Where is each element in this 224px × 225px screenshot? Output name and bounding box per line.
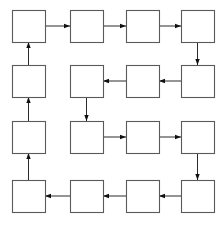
- node-box-r1c3[interactable]: [127, 11, 160, 43]
- edge-r1c1-to-r1c2-arrowhead-icon: [64, 24, 70, 28]
- edge-r1c4-to-r2c4-arrowhead-icon: [195, 59, 199, 65]
- node-box-r3c3[interactable]: [127, 122, 160, 154]
- node-box-r3c4[interactable]: [182, 122, 215, 154]
- edge-r3c3-to-r3c4-arrowhead-icon: [175, 135, 181, 139]
- node-box-r4c1[interactable]: [13, 181, 46, 213]
- node-box-r2c4[interactable]: [182, 66, 215, 98]
- edge-r2c2-to-r3c2-arrowhead-icon: [84, 115, 88, 121]
- node-box-r4c2[interactable]: [71, 181, 104, 213]
- grid-flow-diagram: [0, 0, 224, 225]
- diagram-svg: [0, 0, 224, 225]
- edge-r3c4-to-r4c4-arrowhead-icon: [195, 174, 199, 180]
- node-box-r1c1[interactable]: [13, 11, 46, 43]
- node-box-r1c4[interactable]: [182, 11, 215, 43]
- edge-layer: [26, 24, 199, 198]
- node-box-r2c2[interactable]: [71, 66, 104, 98]
- node-box-r4c3[interactable]: [127, 181, 160, 213]
- node-box-r4c4[interactable]: [182, 181, 215, 213]
- node-box-r3c2[interactable]: [71, 122, 104, 154]
- node-box-r2c1[interactable]: [13, 66, 46, 98]
- edge-r1c2-to-r1c3-arrowhead-icon: [120, 24, 126, 28]
- node-box-r2c3[interactable]: [127, 66, 160, 98]
- node-layer: [13, 11, 215, 213]
- edge-r1c3-to-r1c4-arrowhead-icon: [175, 24, 181, 28]
- node-box-r3c1[interactable]: [13, 122, 46, 154]
- node-box-r1c2[interactable]: [71, 11, 104, 43]
- edge-r3c2-to-r3c3-arrowhead-icon: [120, 135, 126, 139]
